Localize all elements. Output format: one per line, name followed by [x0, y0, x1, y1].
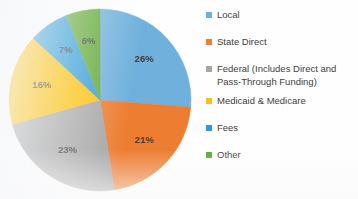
pie-plot-area: 26%21%23%16%7%6%	[0, 0, 200, 199]
pie-slice-value-label: 23%	[58, 144, 78, 155]
pie-slice-value-label: 6%	[82, 35, 96, 46]
legend-color-swatch-icon	[206, 39, 212, 45]
legend-item-label: State Direct	[217, 35, 267, 48]
legend-color-swatch-icon	[206, 66, 212, 72]
pie-slice-value-label: 7%	[59, 44, 73, 55]
pie-chart-figure: 26%21%23%16%7%6% LocalState DirectFedera…	[0, 0, 358, 199]
legend-color-swatch-icon	[206, 98, 212, 104]
chart-legend: LocalState DirectFederal (Includes Direc…	[206, 8, 356, 175]
legend-item[interactable]: State Direct	[206, 35, 356, 62]
legend-item-label: Federal (Includes Direct and Pass-Throug…	[217, 62, 336, 88]
legend-item[interactable]: Fees	[206, 121, 356, 148]
legend-item-label: Fees	[217, 121, 238, 134]
legend-color-swatch-icon	[206, 12, 212, 18]
legend-item[interactable]: Federal (Includes Direct and Pass-Throug…	[206, 62, 356, 94]
legend-color-swatch-icon	[206, 152, 212, 158]
pie-svg: 26%21%23%16%7%6%	[0, 0, 200, 199]
pie-slice-value-label: 21%	[135, 134, 155, 145]
legend-item-label: Local	[217, 8, 240, 21]
pie-slice-value-label: 26%	[135, 53, 155, 64]
pie-slice-value-label: 16%	[32, 79, 52, 90]
legend-item[interactable]: Other	[206, 148, 356, 175]
legend-color-swatch-icon	[206, 125, 212, 131]
legend-item-label: Medicaid & Medicare	[217, 94, 306, 107]
legend-item-label: Other	[217, 148, 241, 161]
pie-slice-group	[9, 9, 191, 191]
legend-item[interactable]: Medicaid & Medicare	[206, 94, 356, 121]
legend-item[interactable]: Local	[206, 8, 356, 35]
